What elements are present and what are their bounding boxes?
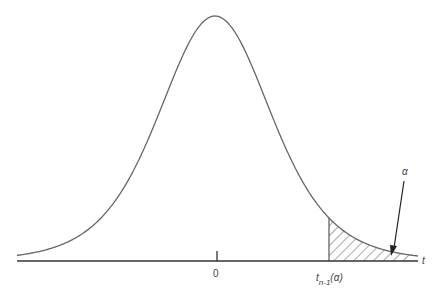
tail-area-hatched: [329, 218, 412, 261]
alpha-label: α: [402, 166, 408, 177]
critical-value-subscript: n-1: [319, 278, 331, 287]
zero-label: 0: [213, 268, 219, 279]
critical-value-arg: (α): [330, 272, 342, 283]
alpha-arrow-shaft: [394, 181, 404, 248]
critical-value-label: tn-1(α): [316, 272, 343, 287]
axis-label-t: t: [422, 255, 426, 266]
t-distribution-diagram: 0 t tn-1(α) α: [0, 0, 436, 298]
density-curve: [17, 16, 418, 256]
